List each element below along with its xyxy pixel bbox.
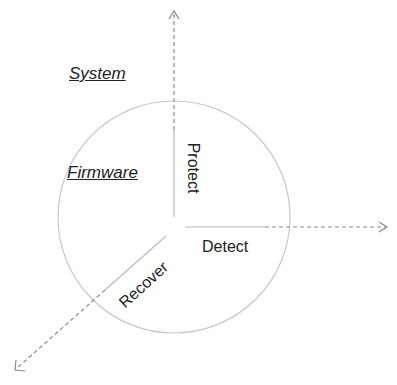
detect-label: Detect [202, 238, 248, 256]
recover-axis [15, 236, 166, 371]
detect-axis [185, 222, 387, 232]
firmware-label: Firmware [67, 163, 138, 183]
protect-axis [169, 11, 179, 217]
diagram-canvas: System Firmware Protect Detect Recover [0, 0, 397, 385]
system-label: System [69, 64, 126, 84]
protect-label: Protect [184, 143, 202, 194]
